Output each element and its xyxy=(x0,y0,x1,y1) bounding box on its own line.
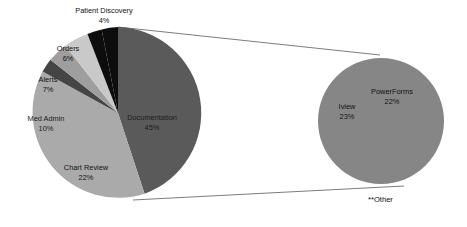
label-alerts-pct: 7% xyxy=(43,85,54,94)
label-med-admin-pct: 10% xyxy=(39,124,54,133)
label-orders-pct: 6% xyxy=(63,54,74,63)
label-other: **Other xyxy=(368,195,393,204)
label-iview: Iview xyxy=(339,102,357,111)
label-documentation: Documentation xyxy=(127,113,177,122)
label-patient-discovery-pct: 4% xyxy=(99,16,110,25)
label-alerts: Alerts xyxy=(39,75,58,84)
label-powerforms: PowerForms xyxy=(371,87,413,96)
secondary-pie xyxy=(318,58,444,184)
label-documentation-pct: 45% xyxy=(145,123,160,132)
label-chart-review-pct: 22% xyxy=(79,173,94,182)
label-patient-discovery: Patient Discovery xyxy=(75,6,133,15)
label-iview-pct: 23% xyxy=(340,112,355,121)
label-powerforms-pct: 22% xyxy=(385,97,400,106)
label-orders: Orders xyxy=(57,44,80,53)
label-med-admin: Med Admin xyxy=(28,114,65,123)
label-chart-review: Chart Review xyxy=(64,163,109,172)
pie-of-pie-chart: Documentation 45% Chart Review 22% Med A… xyxy=(0,0,467,227)
chart-page: Documentation 45% Chart Review 22% Med A… xyxy=(0,0,467,227)
callout-line-bottom xyxy=(133,186,404,200)
